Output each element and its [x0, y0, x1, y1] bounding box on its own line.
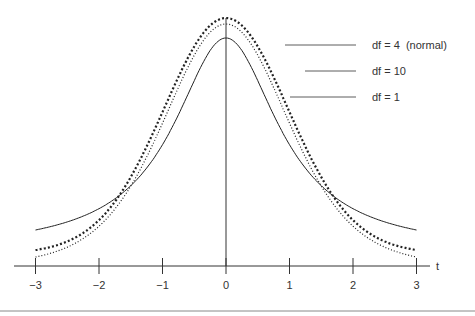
axis-label-t: t — [436, 260, 439, 272]
tick-label: 0 — [223, 279, 229, 291]
tick-label: 3 — [413, 279, 419, 291]
legend-label-s0: df = 4 (normal) — [372, 39, 447, 51]
x-ticks: −3−2−10123 — [29, 258, 419, 291]
tick-label: −3 — [29, 279, 42, 291]
tick-label: −1 — [156, 279, 169, 291]
tick-label: 1 — [286, 279, 292, 291]
legend-label-s2: df = 1 — [372, 91, 400, 103]
t-distribution-chart: −3−2−10123 t df = 4 (normal) df = 10 df … — [0, 0, 475, 316]
tick-label: −2 — [93, 279, 106, 291]
legend-label-s1: df = 10 — [372, 65, 406, 77]
tick-label: 2 — [350, 279, 356, 291]
